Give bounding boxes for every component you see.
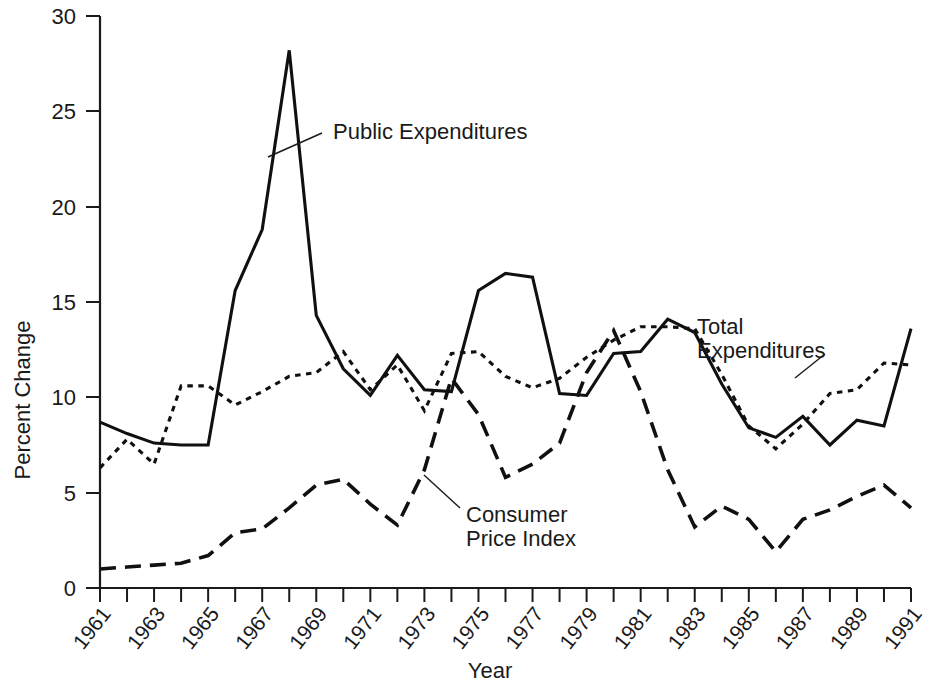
annotation-total-expenditures: Total Expenditures	[697, 314, 825, 378]
x-tick-label-1981: 1981	[609, 602, 656, 653]
x-tick-label-1965: 1965	[176, 602, 223, 653]
x-tick-label-1973: 1973	[393, 602, 440, 653]
y-tick-label-20: 20	[52, 195, 76, 220]
x-tick-label-group: 1961196319651967196919711973197519771979…	[68, 602, 925, 653]
annotation-consumer-price-index: Consumer Price Index	[424, 475, 576, 551]
x-tick-marks	[100, 588, 911, 602]
annotation-label-total-expenditures-line1: Total	[697, 314, 743, 339]
x-tick-label-1985: 1985	[717, 602, 764, 653]
annotation-public-expenditures: Public Expenditures	[268, 119, 527, 157]
annotation-label-consumer-price-index-line2: Price Index	[466, 526, 576, 551]
series-public-expenditures	[100, 50, 911, 445]
y-axis: 30 25 20 15 10 5 0 Percent Change	[10, 4, 100, 601]
x-tick-label-1989: 1989	[825, 602, 872, 653]
x-tick-label-1971: 1971	[339, 602, 386, 653]
y-tick-label-5: 5	[64, 481, 76, 506]
x-tick-label-1991: 1991	[879, 602, 925, 653]
x-tick-label-1967: 1967	[230, 602, 277, 653]
chart-svg: 30 25 20 15 10 5 0 Percent Change 196119…	[0, 0, 925, 686]
x-tick-label-1963: 1963	[122, 602, 169, 653]
x-tick-label-1979: 1979	[555, 602, 602, 653]
line-chart: 30 25 20 15 10 5 0 Percent Change 196119…	[0, 0, 925, 686]
annotation-label-public-expenditures: Public Expenditures	[333, 119, 527, 144]
y-tick-label-15: 15	[52, 290, 76, 315]
x-tick-label-1977: 1977	[501, 602, 548, 653]
y-tick-label-0: 0	[64, 576, 76, 601]
x-tick-label-1983: 1983	[663, 602, 710, 653]
y-tick-label-30: 30	[52, 4, 76, 29]
x-tick-label-1969: 1969	[285, 602, 332, 653]
y-tick-label-10: 10	[52, 385, 76, 410]
x-tick-label-1987: 1987	[771, 602, 818, 653]
annotation-label-consumer-price-index-line1: Consumer	[466, 502, 567, 527]
annotation-label-total-expenditures-line2: Expenditures	[697, 338, 825, 363]
y-axis-title: Percent Change	[10, 321, 35, 480]
x-axis: 1961196319651967196919711973197519771979…	[68, 588, 925, 683]
x-axis-title: Year	[468, 658, 512, 683]
x-tick-label-1975: 1975	[447, 602, 494, 653]
x-tick-label-1961: 1961	[68, 602, 115, 653]
y-tick-label-25: 25	[52, 99, 76, 124]
leader-line-consumer-price-index	[424, 475, 460, 508]
